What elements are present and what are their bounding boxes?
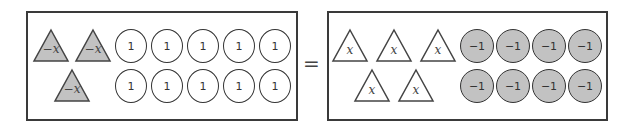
tile-label: 1	[200, 80, 207, 93]
unit-tile-positive: 1	[115, 69, 147, 103]
tile-label: −1	[469, 80, 485, 93]
tile-label: 1	[164, 80, 171, 93]
x-tile: x	[331, 28, 369, 62]
unit-tile-negative: −1	[532, 69, 566, 103]
unit-tile-positive: 1	[223, 29, 255, 63]
tile-label: 1	[236, 80, 243, 93]
tile-label: 1	[128, 80, 135, 93]
right-expression-box	[327, 11, 608, 121]
unit-tile-negative: −1	[568, 69, 602, 103]
unit-tile-positive: 1	[259, 29, 291, 63]
neg-x-tile: −x	[74, 28, 112, 62]
unit-tile-negative: −1	[460, 29, 494, 63]
unit-tile-positive: 1	[259, 69, 291, 103]
tile-label: −x	[32, 42, 70, 56]
tile-label: 1	[200, 40, 207, 53]
unit-tile-positive: 1	[151, 29, 183, 63]
tile-label: x	[375, 43, 413, 57]
tile-label: 1	[272, 80, 279, 93]
tile-label: −x	[53, 82, 91, 96]
tile-label: x	[397, 83, 435, 97]
unit-tile-positive: 1	[223, 69, 255, 103]
tile-label: −1	[505, 40, 521, 53]
tile-label: −1	[505, 80, 521, 93]
x-tile: x	[353, 68, 391, 102]
equals-sign: =	[303, 51, 320, 75]
tile-label: −x	[74, 42, 112, 56]
tile-label: x	[419, 43, 457, 57]
neg-x-tile: −x	[32, 28, 70, 62]
tile-label: −1	[577, 80, 593, 93]
unit-tile-negative: −1	[496, 69, 530, 103]
tile-label: 1	[128, 40, 135, 53]
x-tile: x	[397, 68, 435, 102]
tile-label: −1	[469, 40, 485, 53]
tile-label: −1	[577, 40, 593, 53]
x-tile: x	[419, 28, 457, 62]
unit-tile-positive: 1	[187, 29, 219, 63]
tile-label: 1	[236, 40, 243, 53]
tile-label: x	[331, 43, 369, 57]
unit-tile-negative: −1	[568, 29, 602, 63]
tile-label: x	[353, 83, 391, 97]
x-tile: x	[375, 28, 413, 62]
neg-x-tile: −x	[53, 68, 91, 102]
unit-tile-negative: −1	[460, 69, 494, 103]
tile-label: 1	[272, 40, 279, 53]
tile-label: −1	[541, 80, 557, 93]
unit-tile-positive: 1	[187, 69, 219, 103]
tile-label: 1	[164, 40, 171, 53]
unit-tile-positive: 1	[115, 29, 147, 63]
unit-tile-negative: −1	[532, 29, 566, 63]
unit-tile-negative: −1	[496, 29, 530, 63]
tile-label: −1	[541, 40, 557, 53]
unit-tile-positive: 1	[151, 69, 183, 103]
